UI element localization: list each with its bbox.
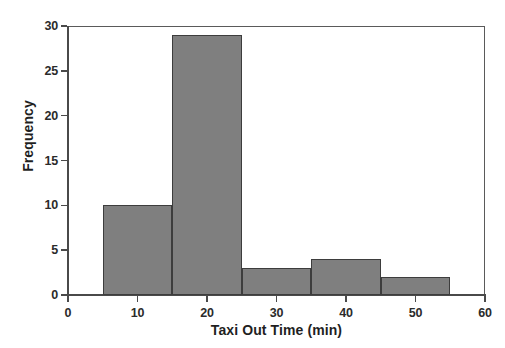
x-tick-label: 20 [200,306,214,320]
y-tick-label: 30 [22,19,58,33]
x-tick-label: 40 [339,306,353,320]
x-tick-label: 50 [409,306,423,320]
y-tick-label: 5 [22,243,58,257]
plot-area [68,26,485,295]
x-tick-mark [276,296,277,302]
y-axis-line [67,26,69,296]
y-tick-mark [61,205,67,206]
x-tick-label: 10 [131,306,145,320]
x-tick-mark [67,296,68,302]
y-tick-mark [61,249,67,250]
y-tick-label: 0 [22,288,58,302]
x-tick-label: 0 [65,306,72,320]
y-tick-mark [61,70,67,71]
y-axis-title: Frequency [20,56,36,216]
x-tick-mark [137,296,138,302]
x-tick-label: 60 [478,306,492,320]
x-tick-label: 30 [270,306,284,320]
x-tick-mark [345,296,346,302]
histogram-figure: 0510152025300102030405060 Taxi Out Time … [0,0,505,348]
y-tick-mark [61,115,67,116]
y-tick-mark [61,25,67,26]
y-tick-mark [61,160,67,161]
y-tick-mark [61,294,67,295]
x-tick-mark [484,296,485,302]
x-tick-mark [206,296,207,302]
x-axis-title: Taxi Out Time (min) [68,322,485,338]
x-tick-mark [415,296,416,302]
